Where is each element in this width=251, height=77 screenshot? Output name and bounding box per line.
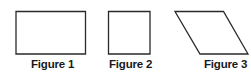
figure-2-square bbox=[109, 12, 151, 55]
figure-2-label: Figure 2 bbox=[109, 58, 152, 70]
figure-1-rectangle bbox=[16, 12, 86, 55]
figure-1-label: Figure 1 bbox=[31, 58, 74, 70]
figure-3-label: Figure 3 bbox=[204, 58, 247, 70]
figure-3-parallelogram bbox=[175, 12, 248, 55]
